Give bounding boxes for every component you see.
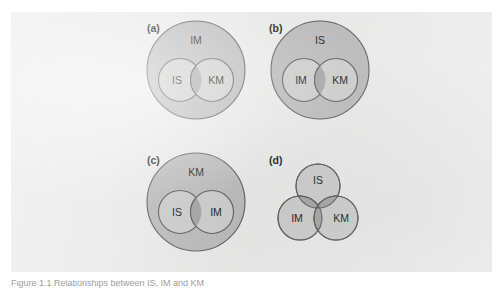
venn-d-top-label: IS — [313, 174, 323, 186]
figure-caption: Figure 1.1 Relationships between IS, IM … — [11, 280, 391, 291]
panel-label-d: (d) — [269, 154, 282, 166]
venn-d-left-label: IM — [291, 212, 303, 224]
venn-diagram-d: (d) IS IM KM — [11, 12, 492, 272]
figure-screenshot: (a) IM IS KM (b) IS IM KM — [0, 0, 504, 291]
figure-caption-text: Figure 1.1 Relationships between IS, IM … — [11, 280, 204, 289]
venn-d-right-label: KM — [333, 212, 349, 224]
figure-panel: (a) IM IS KM (b) IS IM KM — [11, 12, 492, 272]
